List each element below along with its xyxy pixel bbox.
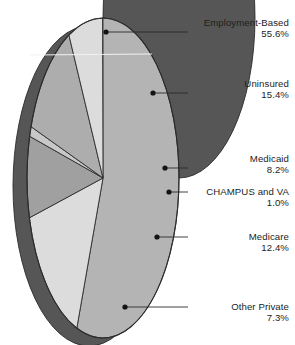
callout-name: Medicare: [249, 231, 289, 242]
callout-dot: [122, 304, 127, 309]
callout-percent: 15.4%: [244, 89, 289, 100]
callout-percent: 55.6%: [204, 28, 289, 39]
callout-dot: [166, 189, 171, 194]
callout-label-medicare: Medicare 12.4%: [249, 231, 289, 254]
callout-name: CHAMPUS and VA: [206, 186, 289, 197]
callout-label-medicaid: Medicaid 8.2%: [250, 153, 289, 176]
callout-name: Other Private: [231, 301, 289, 312]
callout-percent: 7.3%: [231, 312, 289, 323]
callout-name: Uninsured: [244, 78, 289, 89]
pie-chart-figure: Employment-Based 55.6% Uninsured 15.4% M…: [0, 0, 295, 345]
pie-slices: [27, 18, 179, 338]
callout-label-champus-and-va: CHAMPUS and VA 1.0%: [206, 186, 289, 209]
callout-name: Employment-Based: [204, 17, 289, 28]
callout-label-employment-based: Employment-Based 55.6%: [204, 17, 289, 40]
callout-name: Medicaid: [250, 153, 289, 164]
callout-dot: [162, 165, 167, 170]
callout-label-uninsured: Uninsured 15.4%: [244, 78, 289, 101]
callout-label-other-private: Other Private 7.3%: [231, 301, 289, 324]
callout-dot: [150, 90, 155, 95]
callout-percent: 12.4%: [249, 242, 289, 253]
callout-percent: 1.0%: [206, 197, 289, 208]
callout-dot: [154, 234, 159, 239]
callout-percent: 8.2%: [250, 164, 289, 175]
callout-dot: [103, 29, 108, 34]
